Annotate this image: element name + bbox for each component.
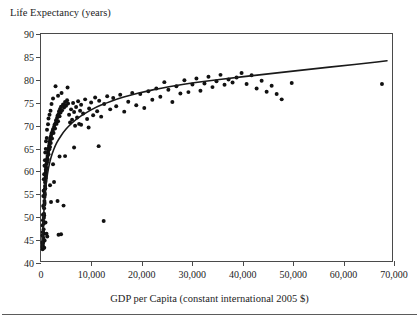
data-point — [206, 75, 210, 79]
data-point — [126, 100, 130, 104]
data-point — [44, 147, 48, 151]
y-axis-tick-label: 65 — [24, 143, 34, 154]
y-axis-tick — [36, 240, 41, 241]
y-axis-tick-label: 70 — [24, 120, 34, 131]
data-point — [166, 88, 170, 92]
data-point — [45, 136, 49, 140]
x-axis-tick — [344, 261, 345, 266]
data-point — [78, 109, 82, 113]
data-point — [50, 102, 54, 106]
x-axis-tick-label: 30,000 — [179, 269, 207, 280]
y-axis-title: Life Expectancy (years) — [10, 6, 111, 19]
x-axis-tick — [394, 261, 395, 266]
data-point — [43, 151, 47, 155]
data-point — [58, 114, 62, 118]
data-point — [223, 83, 227, 87]
footer-divider — [2, 314, 417, 315]
data-point — [50, 136, 54, 140]
y-axis-tick — [36, 171, 41, 172]
data-point — [56, 119, 60, 123]
data-point — [280, 97, 284, 101]
data-point — [58, 155, 62, 159]
data-point — [219, 73, 223, 77]
data-point — [95, 109, 99, 113]
data-point — [97, 144, 101, 148]
data-point — [108, 107, 112, 111]
data-point — [255, 86, 259, 90]
y-axis-tick — [36, 149, 41, 150]
x-axis-tick-label: 60,000 — [330, 269, 358, 280]
data-point — [62, 204, 66, 208]
y-axis-tick — [36, 34, 41, 35]
data-point — [240, 71, 244, 75]
data-point — [97, 99, 101, 103]
data-point — [45, 235, 49, 239]
data-point — [66, 101, 70, 105]
y-axis-tick-label: 40 — [24, 258, 34, 269]
data-point — [71, 101, 75, 105]
x-axis-tick-label: 10,000 — [78, 269, 106, 280]
data-point — [380, 82, 384, 86]
data-point — [60, 91, 64, 95]
data-point — [53, 126, 57, 130]
data-point — [46, 122, 50, 126]
data-point — [99, 115, 103, 119]
data-point — [186, 90, 190, 94]
data-point — [48, 183, 52, 187]
fit-curve — [42, 61, 387, 248]
data-point — [114, 104, 118, 108]
data-point — [260, 79, 264, 83]
data-point — [54, 84, 58, 88]
data-point — [89, 101, 93, 105]
data-point — [51, 162, 55, 166]
data-point — [102, 219, 106, 223]
data-point — [91, 113, 95, 117]
x-axis-tick — [142, 261, 143, 266]
data-point — [45, 128, 49, 132]
data-point — [178, 91, 182, 95]
data-point — [69, 107, 73, 111]
data-point — [56, 199, 60, 203]
data-point — [49, 109, 53, 113]
data-point — [87, 126, 91, 130]
data-point — [118, 93, 122, 97]
data-point — [122, 110, 126, 114]
data-point — [275, 92, 279, 96]
data-point — [73, 124, 77, 128]
data-points-group — [40, 71, 384, 251]
y-axis-tick-label: 60 — [24, 166, 34, 177]
data-point — [72, 110, 76, 114]
x-axis-tick-label: 70,000 — [380, 269, 408, 280]
data-point — [63, 154, 67, 158]
data-point — [66, 86, 70, 90]
x-axis-tick-label: 0 — [39, 269, 44, 280]
data-point — [42, 177, 46, 181]
data-point — [49, 141, 53, 145]
chart-figure: Life Expectancy (years) 4045505560657075… — [0, 0, 419, 322]
data-point — [72, 146, 76, 150]
data-point — [83, 97, 87, 101]
data-point — [76, 99, 80, 103]
plot-area: 4045505560657075808590010,00020,00030,00… — [40, 33, 393, 262]
data-point — [63, 103, 67, 107]
data-point — [134, 103, 138, 107]
data-point — [245, 82, 249, 86]
data-point — [43, 164, 47, 168]
data-point — [182, 78, 186, 82]
data-point — [59, 232, 63, 236]
data-point — [170, 100, 174, 104]
data-point — [211, 85, 215, 89]
y-axis-tick-label: 80 — [24, 74, 34, 85]
data-point — [150, 98, 154, 102]
x-axis-tick-label: 40,000 — [229, 269, 257, 280]
data-point — [52, 180, 56, 184]
data-point — [42, 172, 46, 176]
data-point — [105, 94, 109, 98]
y-axis-tick-label: 50 — [24, 212, 34, 223]
data-point — [48, 113, 52, 117]
data-point — [142, 106, 146, 110]
data-point — [265, 90, 269, 94]
x-axis-tick — [91, 261, 92, 266]
data-point — [79, 103, 83, 107]
data-point — [270, 84, 274, 88]
